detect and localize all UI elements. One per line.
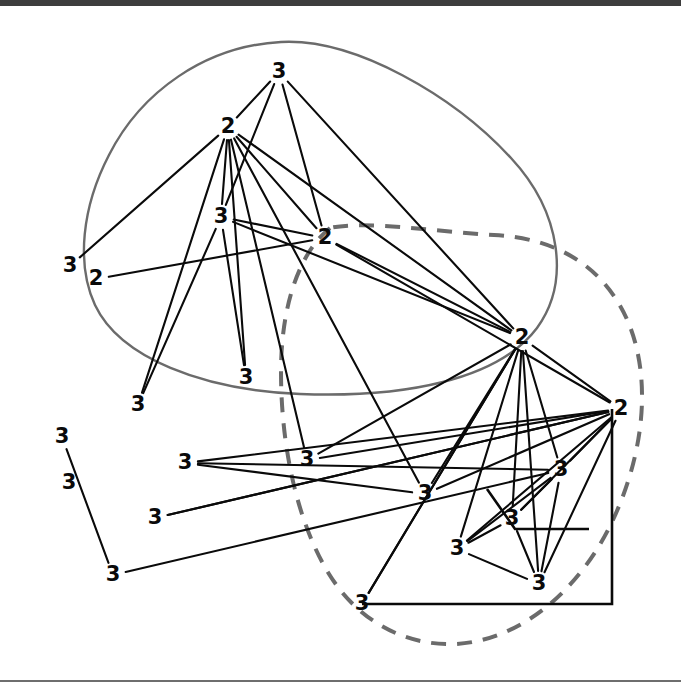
graph-node-label: 3	[505, 506, 520, 530]
graph-node-label: 3	[355, 591, 370, 615]
graph-edge	[467, 417, 611, 540]
graph-edge	[80, 136, 218, 258]
bottom-border-rule	[0, 680, 681, 682]
graph-edge	[109, 240, 312, 276]
graph-edge	[533, 346, 611, 402]
graph-node-label: 2	[318, 225, 333, 249]
graph-node-label: 3	[272, 59, 287, 83]
graph-edge	[126, 473, 549, 572]
graph-node-label: 2	[515, 325, 530, 349]
graph-edge	[521, 479, 552, 510]
graph-node-label: 3	[62, 470, 77, 494]
graph-node-label: 2	[221, 114, 236, 138]
graph-node-label: 3	[418, 481, 433, 505]
graph-edge	[237, 82, 270, 118]
graph-node-label: 2	[614, 396, 629, 420]
graph-edge	[369, 349, 516, 593]
graph-edge	[67, 449, 109, 563]
graph-edge	[513, 351, 522, 506]
graph-edge	[517, 531, 534, 572]
graph-node-label: 3	[106, 562, 121, 586]
graph-edge	[282, 85, 321, 226]
graph-node-label: 3	[300, 447, 315, 471]
graph-edge	[142, 139, 224, 392]
graph-node-label: 3	[131, 392, 146, 416]
graph-edge	[318, 344, 510, 453]
graph-edge	[336, 245, 609, 403]
graph-edge	[234, 138, 419, 482]
graph-edge	[143, 229, 216, 393]
graph-node-label: 3	[450, 536, 465, 560]
graph-edge	[469, 554, 527, 579]
graph-node-label: 2	[89, 266, 104, 290]
graph-edge	[288, 82, 513, 329]
graph-edge	[337, 244, 511, 332]
graph-edge	[222, 140, 227, 204]
graph-node-label: 3	[532, 571, 547, 595]
graph-node-label: 3	[239, 365, 254, 389]
graph-node-label: 3	[178, 450, 193, 474]
graph-node-label: 3	[55, 424, 70, 448]
graph-edge	[541, 483, 558, 571]
graph-node-label: 3	[63, 253, 78, 277]
region-boundaries	[84, 42, 642, 644]
graph-node-label: 3	[148, 505, 163, 529]
graph-edge	[233, 222, 510, 333]
figure-canvas: 3232322332333333333333	[0, 0, 681, 688]
graph-edge	[526, 350, 558, 457]
graph-node-label: 3	[214, 204, 229, 228]
graph-edge	[231, 140, 304, 448]
graph-node-label: 3	[554, 457, 569, 481]
graph-drawing: 3232322332333333333333	[0, 0, 681, 688]
